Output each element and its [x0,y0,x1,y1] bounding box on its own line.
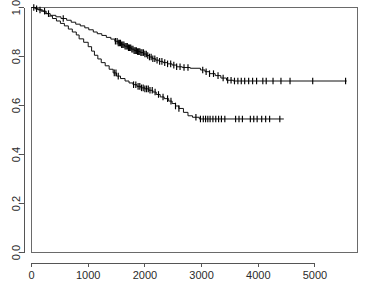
x-tick-label: 0 [28,269,34,281]
y-tick-label: 0.0 [10,245,22,260]
y-tick-label: 0.2 [10,196,22,211]
survival-plot-container: 010002000300040005000 0.00.20.40.60.81.0 [0,0,365,284]
kaplan-meier-chart: 010002000300040005000 0.00.20.40.60.81.0 [0,0,365,284]
x-tick-label: 5000 [303,269,327,281]
y-tick-label: 1.0 [10,0,22,15]
y-tick-label: 0.6 [10,98,22,113]
x-tick-label: 3000 [189,269,213,281]
y-tick-label: 0.8 [10,49,22,64]
chart-background [0,0,365,284]
x-tick-label: 4000 [246,269,270,281]
x-tick-label: 1000 [76,269,100,281]
y-tick-label: 0.4 [10,147,22,162]
x-tick-label: 2000 [133,269,157,281]
